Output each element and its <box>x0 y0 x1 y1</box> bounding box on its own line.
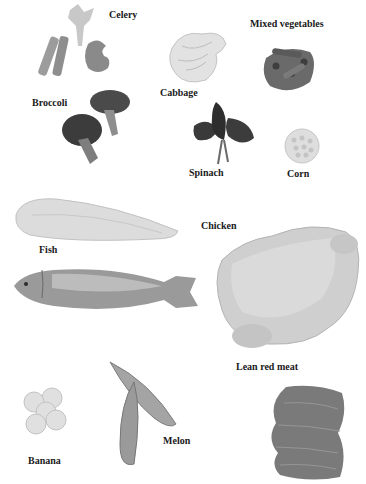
mixed-vegetables-image <box>262 38 318 94</box>
label-broccoli: Broccoli <box>32 97 67 108</box>
label-spinach: Spinach <box>189 167 223 178</box>
label-cabbage: Cabbage <box>160 87 198 98</box>
label-celery: Celery <box>109 9 137 20</box>
lean-red-meat-image <box>268 385 352 481</box>
label-fish: Fish <box>39 244 57 255</box>
cabbage-image <box>168 28 228 84</box>
fish-fillet-image <box>12 195 182 243</box>
chicken-image <box>212 218 362 350</box>
corn-image <box>282 126 322 166</box>
label-lean-red-meat: Lean red meat <box>236 361 298 372</box>
melon-image <box>106 360 178 466</box>
label-melon: Melon <box>163 435 190 446</box>
celery-image <box>38 2 118 82</box>
broccoli-image <box>60 88 140 166</box>
label-banana: Banana <box>28 455 61 466</box>
label-mixed-vegetables: Mixed vegetables <box>250 18 324 29</box>
whole-fish-image <box>12 264 202 314</box>
label-corn: Corn <box>287 168 309 179</box>
spinach-image <box>188 100 258 170</box>
banana-image <box>18 384 72 440</box>
